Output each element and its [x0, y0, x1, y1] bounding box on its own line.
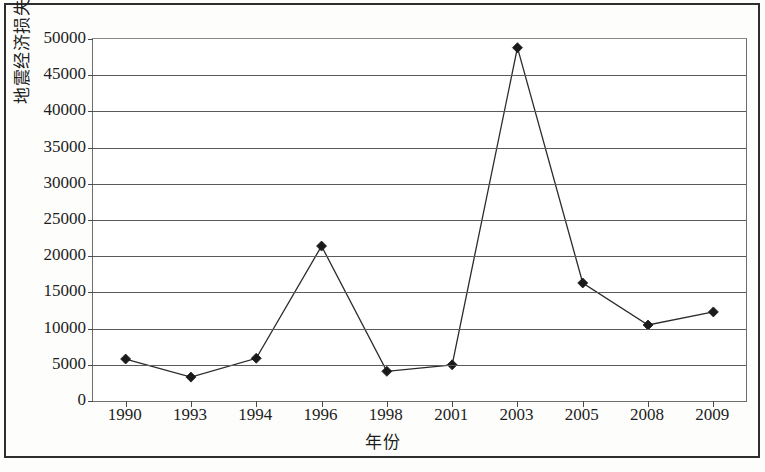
x-axis-tick-label: 1996: [286, 404, 356, 426]
data-point-marker: [708, 307, 718, 317]
x-axis-tick-label: 2001: [416, 404, 486, 426]
data-point-marker: [512, 43, 522, 53]
y-axis-tick-label: 5000: [22, 355, 86, 372]
y-axis-tick-label: 35000: [22, 138, 86, 155]
horizontal-gridline: [93, 365, 746, 366]
horizontal-gridline: [93, 111, 746, 112]
x-axis-tick-label: 1994: [220, 404, 290, 426]
data-point-marker: [578, 278, 588, 288]
y-axis-tick-label: 45000: [22, 65, 86, 82]
y-axis-tick-label: 50000: [22, 29, 86, 46]
x-axis-tick-labels: 1990199319941996199820012003200520082009: [92, 404, 745, 430]
data-point-marker: [186, 372, 196, 382]
y-axis-tick-label: 10000: [22, 319, 86, 336]
x-axis-title: 年份: [0, 428, 765, 453]
y-axis-tick-label: 25000: [22, 210, 86, 227]
x-axis-tick-label: 2009: [677, 404, 747, 426]
y-axis-tick-labels: 0500010000150002000025000300003500040000…: [20, 0, 86, 472]
horizontal-gridline: [93, 292, 746, 293]
data-point-marker: [251, 353, 261, 363]
y-axis-tick-label: 0: [22, 391, 86, 408]
horizontal-gridline: [93, 184, 746, 185]
x-axis-tick-label: 2005: [547, 404, 617, 426]
x-axis-tick-label: 1993: [155, 404, 225, 426]
y-axis-tick-label: 30000: [22, 174, 86, 191]
chart-figure: 地震经济损失/万元 050001000015000200002500030000…: [0, 0, 765, 472]
horizontal-gridline: [93, 75, 746, 76]
series-markers: [121, 43, 719, 382]
y-axis-tick-mark: [88, 39, 93, 40]
data-point-marker: [382, 366, 392, 376]
horizontal-gridline: [93, 329, 746, 330]
x-axis-tick-label: 2003: [481, 404, 551, 426]
y-axis-tick-label: 15000: [22, 282, 86, 299]
y-axis-tick-mark: [88, 401, 93, 402]
data-point-marker: [121, 354, 131, 364]
data-point-marker: [317, 241, 327, 251]
horizontal-gridline: [93, 148, 746, 149]
x-axis-tick-label: 1998: [351, 404, 421, 426]
y-axis-tick-label: 20000: [22, 246, 86, 263]
x-axis-tick-label: 1990: [90, 404, 160, 426]
horizontal-gridline: [93, 220, 746, 221]
x-axis-tick-label: 2008: [612, 404, 682, 426]
plot-area: [92, 38, 747, 402]
y-axis-tick-label: 40000: [22, 101, 86, 118]
horizontal-gridline: [93, 256, 746, 257]
series-polyline: [126, 48, 714, 377]
